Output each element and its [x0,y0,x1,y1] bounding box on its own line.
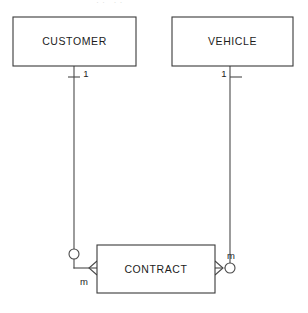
vehicle-contract-optional-circle [225,263,235,273]
entity-customer[interactable]: CUSTOMER [13,17,136,66]
entity-vehicle-label: VEHICLE [208,35,257,47]
cardinality-contract-left-many: m [80,276,88,287]
entity-contract-label: CONTRACT [124,263,187,275]
entity-customer-label: CUSTOMER [42,35,107,47]
customer-contract-optional-circle [69,249,79,259]
cardinality-customer-one: 1 [83,68,88,79]
relationship-customer-contract [68,66,97,275]
er-diagram-svg: CUSTOMER VEHICLE CONTRACT 1 1 m m [0,0,308,313]
er-diagram-canvas: ·· ·· [0,0,308,313]
entity-contract[interactable]: CONTRACT [97,245,215,293]
cardinality-vehicle-one: 1 [221,68,226,79]
cardinality-contract-right-many: m [227,250,235,261]
entity-vehicle[interactable]: VEHICLE [172,17,293,66]
relationship-vehicle-contract [215,66,242,275]
